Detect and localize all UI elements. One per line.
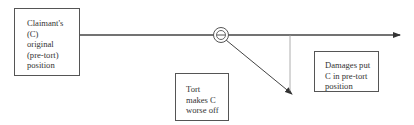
tort-label: Tort makes C worse off [186, 84, 228, 116]
original-position-box: Claimant's (C) original (pre-tort) posit… [14, 8, 80, 76]
tort-box: Tort makes C worse off [175, 73, 229, 121]
damages-label: Damages put C in pre-tort position [325, 60, 378, 92]
damages-box: Damages put C in pre-tort position [314, 51, 379, 92]
worse-off-arrow [226, 40, 292, 94]
original-position-label: Claimant's (C) original (pre-tort) posit… [27, 18, 79, 71]
minus-circle-icon [214, 28, 229, 43]
